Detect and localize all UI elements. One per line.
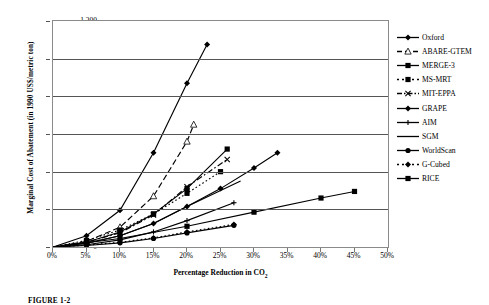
legend-item-oxford[interactable]: Oxford: [396, 30, 489, 44]
x-axis-tick-mark: [186, 248, 187, 252]
legend-label: RICE: [420, 174, 439, 183]
legend-swatch-icon: [396, 145, 420, 156]
x-axis-title-main: Percentage Reduction in CO: [173, 268, 264, 277]
legend-swatch-icon: [396, 131, 420, 142]
legend-label: WorldScan: [420, 146, 456, 155]
legend-item-sgm[interactable]: SGM: [396, 129, 489, 143]
horizontal-gridline: [53, 59, 388, 60]
y-axis-tick-mark: [46, 209, 50, 210]
legend-label: Oxford: [420, 33, 444, 42]
legend-swatch-icon: [396, 32, 420, 43]
series-mit-eppa: [53, 157, 230, 247]
legend-label: SGM: [420, 132, 438, 141]
legend-swatch-icon: [396, 60, 420, 71]
x-axis-title: Percentage Reduction in CO2: [52, 268, 389, 279]
y-axis-tick-mark: [46, 134, 50, 135]
x-axis-tick-mark: [86, 248, 87, 252]
x-axis-tick-mark: [253, 248, 254, 252]
y-axis-tick-mark: [46, 21, 50, 22]
legend-label: ABARE-GTEM: [420, 47, 472, 56]
legend-item-g-cubed[interactable]: G-Cubed: [396, 158, 489, 172]
y-axis-title: Marginal Cost of Abatement (in 1990 US$/…: [26, 3, 35, 253]
y-axis-tick-mark: [46, 96, 50, 97]
legend-swatch-icon: [396, 88, 420, 99]
legend-label: MS-MRT: [420, 75, 452, 84]
legend-swatch-icon: [396, 74, 420, 85]
plot-area: [52, 20, 389, 248]
legend-label: G-Cubed: [420, 160, 450, 169]
x-axis-tick-mark: [119, 248, 120, 252]
y-axis-tick-mark: [46, 247, 50, 248]
y-axis-tick-mark: [46, 172, 50, 173]
x-axis-tick-mark: [354, 248, 355, 252]
horizontal-gridline: [53, 209, 388, 210]
legend-label: MERGE-3: [420, 61, 455, 70]
horizontal-gridline: [53, 134, 388, 135]
y-axis-tick-mark: [46, 59, 50, 60]
legend-item-mit-eppa[interactable]: MIT-EPPA: [396, 87, 489, 101]
x-axis-tick-mark: [287, 248, 288, 252]
legend-item-rice[interactable]: RICE: [396, 172, 489, 186]
legend-swatch-icon: [396, 173, 420, 184]
x-axis-tick-mark: [387, 248, 388, 252]
legend-label: MIT-EPPA: [420, 89, 456, 98]
legend-item-aim[interactable]: AIM: [396, 115, 489, 129]
legend-label: GRAPE: [420, 104, 447, 113]
x-axis-title-subscript: 2: [265, 273, 268, 279]
chart-legend: OxfordABARE-GTEMMERGE-3MS-MRTMIT-EPPAGRA…: [396, 30, 489, 186]
legend-item-merge-3[interactable]: MERGE-3: [396, 58, 489, 72]
x-axis-tick-label: 50%: [367, 252, 407, 260]
series-merge-3: [53, 146, 230, 247]
series-grape: [53, 150, 280, 247]
legend-item-ms-mrt[interactable]: MS-MRT: [396, 73, 489, 87]
x-axis-tick-mark: [52, 248, 53, 252]
legend-item-grape[interactable]: GRAPE: [396, 101, 489, 115]
legend-item-abare-gtem[interactable]: ABARE-GTEM: [396, 44, 489, 58]
figure-caption: FIGURE 1-2: [28, 296, 70, 305]
x-axis-tick-mark: [220, 248, 221, 252]
x-axis-tick-mark: [153, 248, 154, 252]
legend-swatch-icon: [396, 46, 420, 57]
x-axis-tick-mark: [320, 248, 321, 252]
figure-container: Marginal Cost of Abatement (in 1990 US$/…: [0, 0, 489, 305]
legend-label: AIM: [420, 118, 437, 127]
legend-swatch-icon: [396, 103, 420, 114]
legend-swatch-icon: [396, 117, 420, 128]
horizontal-gridline: [53, 96, 388, 97]
horizontal-gridline: [53, 172, 388, 173]
legend-swatch-icon: [396, 159, 420, 170]
legend-item-worldscan[interactable]: WorldScan: [396, 144, 489, 158]
